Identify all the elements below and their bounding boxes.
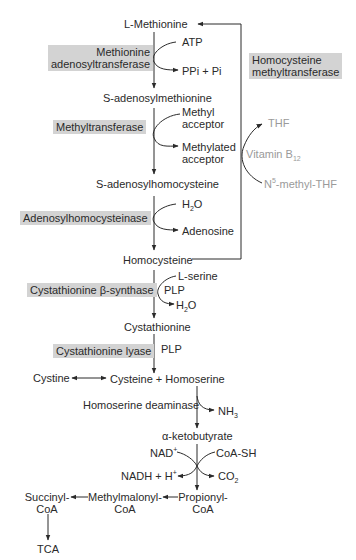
cofactor-atp: ATP <box>182 36 203 48</box>
metabolite-cystathionine: Cystathionine <box>124 321 191 333</box>
cofactor-co2: CO2 <box>218 470 238 482</box>
enzyme-homoserine-deaminase: Homoserine deaminase <box>83 399 199 411</box>
cofactor-nh3: NH3 <box>218 405 238 417</box>
cofactor-plp: PLP <box>164 284 185 296</box>
cofactor-coa-sh: CoA-SH <box>216 447 256 459</box>
metabolite-cysteine-homoserine: Cysteine + Homoserine <box>110 373 225 385</box>
metabolite-l-methionine: L-Methionine <box>124 18 188 30</box>
cofactor-adenosine: Adenosine <box>182 225 234 237</box>
metabolite-cystine: Cystine <box>33 372 70 384</box>
metabolite-methylmalonyl-coa: Methylmalonyl- CoA <box>88 491 162 515</box>
cofactor-ppi-pi: PPi + Pi <box>182 65 221 77</box>
cofactor-vitamin-b12: Vitamin B12 <box>246 148 301 160</box>
metabolite-propionyl-coa: Propionyl- CoA <box>178 491 228 515</box>
metabolite-alpha-ketobutyrate: α-ketobutyrate <box>162 430 233 442</box>
enzyme-methionine-adenosyltransferase: Methionine adenosyltransferase <box>48 45 153 71</box>
cofactor-thf: THF <box>268 117 289 129</box>
metabolite-tca: TCA <box>37 543 59 555</box>
metabolite-s-adenosylmethionine: S-adenosylmethionine <box>103 92 212 104</box>
cofactor-h2o-2: H2O <box>176 299 196 311</box>
enzyme-methyltransferase: Methyltransferase <box>53 120 146 134</box>
cofactor-l-serine: L-serine <box>178 270 218 282</box>
cofactor-nad-plus: NAD+ <box>150 447 177 459</box>
cofactor-methylated-acceptor: Methylated acceptor <box>182 141 236 165</box>
enzyme-adenosylhomocysteinase: Adenosylhomocysteinase <box>20 211 151 225</box>
enzyme-cystathionine-beta-synthase: Cystathionine β-synthase <box>27 283 157 297</box>
metabolite-s-adenosylhomocysteine: S-adenosylhomocysteine <box>96 178 219 190</box>
enzyme-cystathionine-lyase: Cystathionine lyase <box>53 344 154 358</box>
cofactor-n5-methyl-thf: N5-methyl-THF <box>264 178 337 190</box>
metabolite-succinyl-coa: Succinyl- CoA <box>24 491 70 515</box>
cofactor-nadh-h: NADH + H+ <box>121 470 177 482</box>
enzyme-homocysteine-methyltransferase: Homocysteine methyltransferase <box>249 53 342 79</box>
methionine-metabolism-diagram: L-Methionine S-adenosylmethionine S-aden… <box>0 0 356 560</box>
metabolite-homocysteine: Homocysteine <box>123 254 193 266</box>
cofactor-plp-2: PLP <box>161 343 182 355</box>
cofactor-h2o: H2O <box>182 198 202 210</box>
cofactor-methyl-acceptor: Methyl acceptor <box>182 106 224 130</box>
